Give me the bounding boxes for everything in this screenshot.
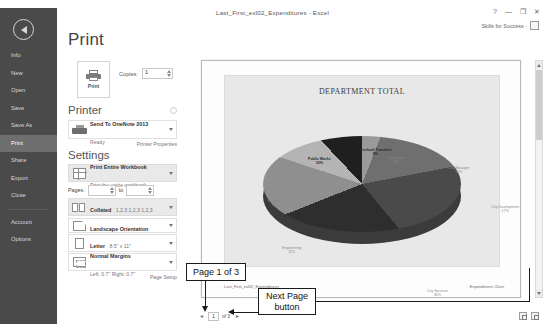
collation-select[interactable]: Collated 1,2,3 1,2,3 1,2,3 bbox=[68, 198, 177, 216]
collation-title: Collated bbox=[90, 207, 111, 213]
back-arrow-icon bbox=[21, 26, 27, 34]
pie-label-city-development: City Development 17% bbox=[491, 205, 519, 214]
help-button[interactable]: ? bbox=[493, 8, 497, 16]
pages-to-decrement-icon[interactable] bbox=[148, 191, 152, 194]
margins-select[interactable]: Normal Margins Left: 0.7" Right: 0.7" bbox=[68, 253, 177, 271]
account-area[interactable]: Skills for Success - bbox=[481, 21, 539, 30]
copies-value[interactable]: 1 bbox=[143, 69, 165, 78]
pie-label-city-services: City Services 30% bbox=[427, 289, 448, 298]
restore-button[interactable]: ❐ bbox=[520, 8, 526, 16]
pages-label: Pages: bbox=[68, 187, 85, 193]
page-setup-link[interactable]: Page Setup bbox=[150, 274, 177, 280]
pages-from-value[interactable] bbox=[89, 186, 108, 195]
pages-from-increment-icon[interactable] bbox=[110, 187, 114, 190]
pages-to-arrows[interactable] bbox=[148, 186, 152, 195]
preview-scrollbar[interactable] bbox=[535, 60, 543, 298]
margins-icon bbox=[69, 257, 89, 267]
pages-to-value[interactable] bbox=[127, 186, 146, 195]
pages-to-label: to bbox=[119, 187, 124, 193]
print-what-title: Print Entire Workbook bbox=[90, 164, 147, 170]
previous-page-button[interactable]: ◂ bbox=[197, 312, 205, 321]
print-button-label: Print bbox=[88, 83, 99, 89]
grid-icon bbox=[69, 168, 89, 179]
current-page-input[interactable]: 1 bbox=[208, 312, 219, 321]
scroll-up-button[interactable] bbox=[536, 61, 542, 69]
copies-spinner-arrows[interactable] bbox=[167, 69, 171, 78]
print-what-caret[interactable] bbox=[166, 172, 176, 175]
pie-label-legislative: Legislative 6% bbox=[388, 156, 405, 165]
annotation-page-indicator: Page 1 of 3 bbox=[186, 263, 246, 281]
printer-device-icon bbox=[69, 125, 89, 135]
annotation-next-leader-h bbox=[233, 312, 259, 313]
sidebar-item-save[interactable]: Save bbox=[0, 100, 57, 118]
orientation-select[interactable]: Landscape Orientation bbox=[68, 218, 177, 233]
annotation-page-arrowhead bbox=[202, 306, 208, 312]
pages-from-stepper[interactable] bbox=[88, 185, 116, 196]
printer-status: Ready bbox=[90, 139, 105, 145]
sidebar-item-save-as[interactable]: Save As bbox=[0, 117, 57, 135]
pages-from-decrement-icon[interactable] bbox=[110, 191, 114, 194]
printer-icon bbox=[86, 70, 101, 81]
preview-zoom-controls bbox=[519, 312, 539, 320]
pie-label-city-manager: City Manager 16% bbox=[448, 166, 469, 175]
backstage-sidebar: Info New Open Save Save As Print Share E… bbox=[0, 8, 57, 324]
sidebar-item-export[interactable]: Export bbox=[0, 170, 57, 188]
pie-label-interfund-transfers: Interfund Transfers 8% bbox=[359, 148, 392, 157]
printer-select[interactable]: Send To OneNote 2013 Ready bbox=[68, 120, 177, 139]
copies-increment-icon[interactable] bbox=[167, 70, 171, 73]
paper-icon bbox=[69, 238, 89, 249]
sidebar-item-share[interactable]: Share bbox=[0, 152, 57, 170]
orientation-caret[interactable] bbox=[166, 224, 176, 227]
copies-label: Copies: bbox=[119, 71, 138, 77]
paper-size-caret[interactable] bbox=[166, 242, 176, 245]
next-page-button[interactable]: ▸ bbox=[233, 312, 241, 321]
sidebar-item-close[interactable]: Close bbox=[0, 187, 57, 205]
annotation-next-arrowhead bbox=[228, 309, 234, 315]
printer-status-icon bbox=[170, 107, 177, 114]
sidebar-item-print[interactable]: Print bbox=[0, 135, 57, 153]
annotation-next-leader-long bbox=[316, 301, 530, 302]
printer-properties-link[interactable]: Printer Properties bbox=[137, 141, 177, 147]
pages-to-increment-icon[interactable] bbox=[148, 187, 152, 190]
sidebar-item-info[interactable]: Info bbox=[0, 47, 57, 65]
copies-control: Copies: 1 bbox=[119, 68, 173, 79]
account-name: Skills for Success - bbox=[481, 23, 527, 29]
sidebar-divider bbox=[8, 209, 49, 210]
collation-caret[interactable] bbox=[166, 206, 176, 209]
pages-to-stepper[interactable] bbox=[126, 185, 154, 196]
zoom-to-page-icon[interactable] bbox=[519, 312, 527, 320]
preview-footer-right: Expenditures Chart bbox=[470, 284, 504, 289]
scrollbar-thumb[interactable] bbox=[536, 70, 542, 140]
pie-chart: Legislative 6% City Manager 16% City Dev… bbox=[255, 122, 469, 246]
sidebar-item-open[interactable]: Open bbox=[0, 82, 57, 100]
print-button[interactable]: Print bbox=[77, 61, 110, 98]
minimize-button[interactable]: — bbox=[505, 8, 512, 16]
print-what-select[interactable]: Print Entire Workbook Print the entire w… bbox=[68, 164, 177, 182]
pages-range-control: Pages: to bbox=[68, 184, 177, 196]
print-settings-panel: Print Print Copies: 1 Printer bbox=[57, 8, 185, 324]
sidebar-item-account[interactable]: Account bbox=[0, 214, 57, 232]
pie-label-engineering: Engineering 11% bbox=[282, 246, 301, 255]
back-button[interactable] bbox=[13, 19, 34, 40]
chart-title: DEPARTMENT TOTAL bbox=[225, 87, 499, 96]
collate-icon bbox=[69, 203, 89, 212]
account-avatar-icon[interactable] bbox=[530, 21, 539, 30]
copies-stepper[interactable]: 1 bbox=[142, 68, 173, 79]
pie-label-finance: Finance 8% bbox=[268, 199, 281, 208]
chart-area: DEPARTMENT TOTAL Legislative 6% City Man… bbox=[224, 75, 500, 267]
annotation-page-leader-v bbox=[205, 281, 206, 308]
page-title: Print bbox=[68, 30, 104, 50]
margins-caret[interactable] bbox=[166, 261, 176, 264]
show-margins-icon[interactable] bbox=[531, 312, 539, 320]
copies-decrement-icon[interactable] bbox=[167, 74, 171, 77]
sidebar-item-new[interactable]: New bbox=[0, 65, 57, 83]
pages-from-arrows[interactable] bbox=[110, 186, 114, 195]
pie-label-public-works: Public Works 10% bbox=[308, 157, 331, 166]
scroll-down-button[interactable] bbox=[536, 289, 542, 297]
close-button[interactable]: ✕ bbox=[534, 8, 540, 16]
page-navigation: ◂ 1 of 3 ▸ bbox=[197, 312, 241, 321]
sidebar-item-options[interactable]: Options bbox=[0, 231, 57, 249]
annotation-next-leader-right-v bbox=[529, 268, 530, 302]
excel-backstage-print-window: Last_First_exl02_Expenditures - Excel ? … bbox=[0, 0, 545, 331]
printer-dropdown-caret[interactable] bbox=[166, 128, 176, 131]
